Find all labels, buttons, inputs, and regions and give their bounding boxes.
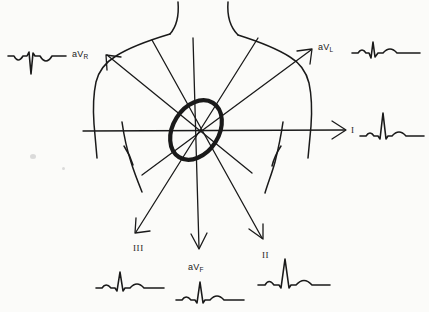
label-lead-II: II: [262, 250, 269, 260]
torso-outline: [93, 2, 311, 193]
right-chest-side-line: [265, 122, 283, 193]
axis-line-lead-I: [83, 130, 345, 131]
ecg-trace-aVR: [8, 52, 66, 74]
left-chest-side-line: [122, 122, 142, 192]
label-aVF-base: aV: [188, 262, 199, 272]
ecg-axis-diagram: .ink { fill:none; stroke:#1a1a1a; stroke…: [0, 0, 429, 312]
neck-right-line: [228, 2, 238, 35]
ecg-trace-aVF: [176, 282, 244, 303]
axis-arrowheads: [106, 49, 346, 249]
axis-line-aVF: [193, 38, 199, 248]
label-lead-III: III: [133, 243, 144, 253]
ecg-trace-lead-I: [360, 113, 424, 139]
ecg-trace-aVL: [352, 42, 420, 58]
ecg-trace-lead-II: [258, 259, 330, 288]
label-aVR-sub: R: [83, 53, 88, 60]
label-aVR-base: aV: [72, 49, 83, 59]
label-aVL-base: aV: [318, 42, 329, 52]
label-aVF-sub: F: [199, 266, 203, 273]
label-aVL-sub: L: [329, 46, 333, 53]
axis-line-lead-III: [136, 38, 258, 232]
neck-left-line: [170, 2, 178, 34]
label-aVF: aVF: [188, 262, 204, 272]
label-aVL: aVL: [318, 42, 333, 52]
label-lead-I: I: [351, 125, 355, 135]
ecg-trace-lead-III: [96, 272, 164, 291]
label-aVR: aVR: [72, 49, 88, 59]
